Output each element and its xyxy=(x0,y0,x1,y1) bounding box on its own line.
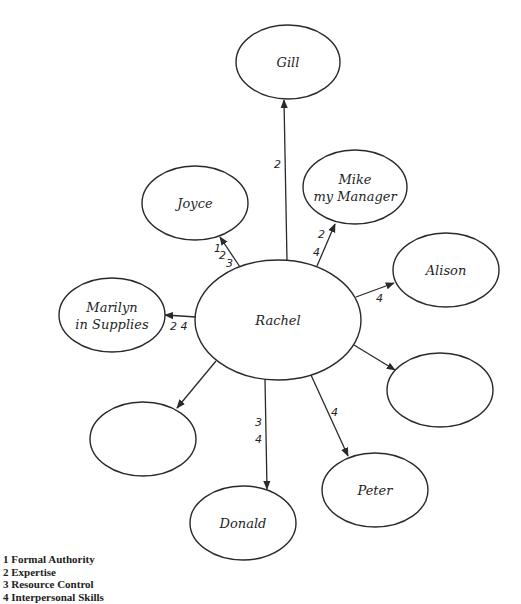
ellipse-shape xyxy=(90,402,196,476)
edge-label-joyce: 3 xyxy=(226,257,233,270)
ellipse-shape xyxy=(387,353,493,427)
node-label: Donald xyxy=(219,516,267,531)
edge-label-alison: 4 xyxy=(376,292,383,305)
edge-arrow-rachel-to-empty-right xyxy=(354,345,395,370)
ellipse-shape xyxy=(59,278,165,352)
ellipse-shape xyxy=(303,150,407,224)
legend-item-formal-authority: 1 Formal Authority xyxy=(3,553,104,566)
edge-label-donald: 4 xyxy=(255,433,262,446)
node-joyce: Joyce xyxy=(142,166,248,240)
legend: 1 Formal Authority 2 Expertise 3 Resourc… xyxy=(3,553,104,604)
legend-item-expertise: 2 Expertise xyxy=(3,566,104,579)
node-donald: Donald xyxy=(190,486,296,560)
edge-label-mike: 4 xyxy=(313,246,320,259)
node-rachel: Rachel xyxy=(195,260,361,380)
edge-label-peter: 4 xyxy=(331,406,338,419)
edge-label-mike: 2 xyxy=(318,228,325,241)
node-label: Joyce xyxy=(174,196,213,211)
legend-number: 4 xyxy=(3,591,9,603)
node-label: my Manager xyxy=(313,189,397,204)
edge-arrow-rachel-to-donald xyxy=(265,379,267,489)
node-label: Peter xyxy=(357,483,394,498)
node-label: Gill xyxy=(277,55,300,70)
legend-number: 1 xyxy=(3,553,9,565)
nodes-layer: RachelGillJoyceMikemy ManagerAlisonMaril… xyxy=(59,25,499,560)
node-empty-left xyxy=(90,402,196,476)
legend-label: Expertise xyxy=(11,566,56,578)
legend-number: 2 xyxy=(3,566,9,578)
node-empty-right xyxy=(387,353,493,427)
edge-arrow-rachel-to-empty-left xyxy=(177,361,216,408)
node-alison: Alison xyxy=(393,233,499,307)
node-label: Mike xyxy=(337,172,371,187)
legend-number: 3 xyxy=(3,578,9,590)
edge-arrow-rachel-to-gill xyxy=(284,100,287,261)
node-peter: Peter xyxy=(322,453,428,527)
node-label: Marilyn xyxy=(85,300,137,315)
edge-arrow-rachel-to-peter xyxy=(311,375,348,456)
legend-item-interpersonal-skills: 4 Interpersonal Skills xyxy=(3,591,104,604)
edge-label-gill: 2 xyxy=(274,158,281,171)
node-label: Rachel xyxy=(254,313,300,328)
node-label: Alison xyxy=(425,263,467,278)
power-network-diagram: RachelGillJoyceMikemy ManagerAlisonMaril… xyxy=(0,0,521,604)
edge-arrow-rachel-to-marilyn xyxy=(165,315,196,317)
legend-label: Formal Authority xyxy=(11,553,94,565)
node-gill: Gill xyxy=(236,25,340,99)
node-label: in Supplies xyxy=(75,317,149,332)
edge-label-donald: 3 xyxy=(255,416,262,429)
node-mike: Mikemy Manager xyxy=(303,150,407,224)
edge-label-marilyn: 2 4 xyxy=(170,320,188,333)
legend-item-resource-control: 3 Resource Control xyxy=(3,578,104,591)
node-marilyn: Marilynin Supplies xyxy=(59,278,165,352)
legend-label: Resource Control xyxy=(11,578,93,590)
edge-label-joyce: 2 xyxy=(219,249,226,262)
legend-label: Interpersonal Skills xyxy=(11,591,104,603)
edge-arrow-rachel-to-alison xyxy=(356,283,394,297)
